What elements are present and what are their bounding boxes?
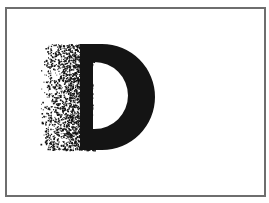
dissolving-letter-d [0,0,269,203]
letter-d-shape [80,44,155,150]
